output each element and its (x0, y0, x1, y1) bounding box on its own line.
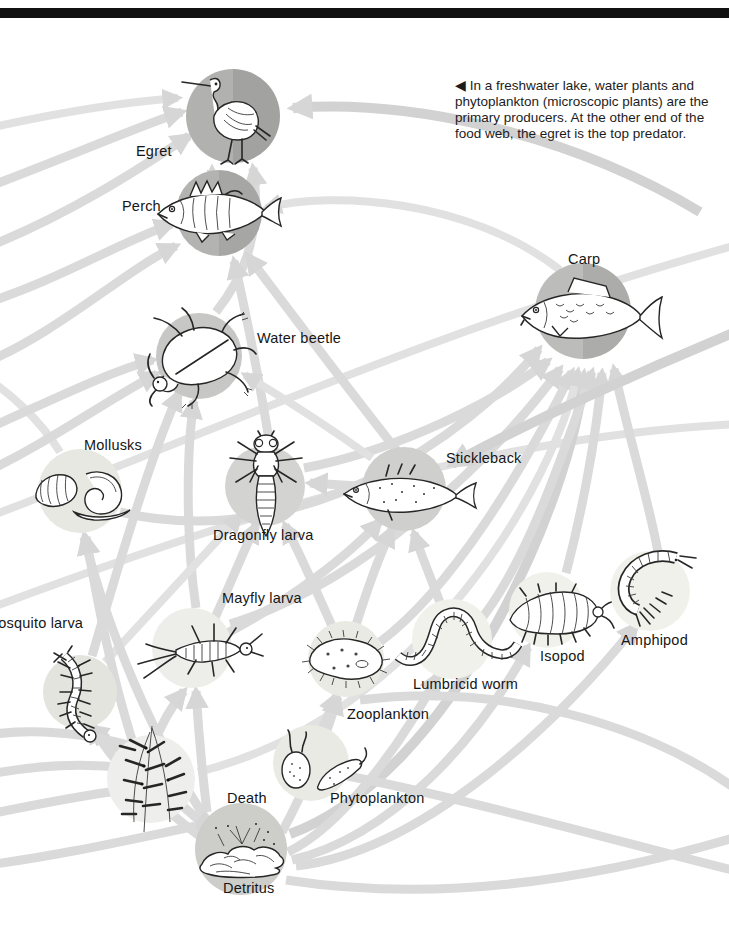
mayfly-larva-icon (136, 608, 264, 684)
lumbricid-worm-icon (392, 598, 518, 670)
detritus-icon (194, 818, 292, 882)
amphipod-label: Amphipod (621, 632, 688, 648)
zooplankton-icon (298, 624, 394, 694)
perch-label: Perch (122, 198, 161, 214)
egret-icon (178, 56, 278, 168)
lumbricid-worm-label: Lumbricid worm (413, 676, 518, 692)
death-label: Death (227, 790, 267, 806)
detritus-label: Detritus (223, 880, 275, 896)
water-plants-icon (106, 722, 198, 836)
perch-icon (150, 172, 282, 250)
water-beetle-label: Water beetle (257, 330, 341, 346)
food-web-diagram-page: ◀ In a freshwater lake, water plants and… (0, 0, 729, 944)
zooplankton-label: Zooplankton (347, 706, 429, 722)
carp-icon (512, 270, 662, 354)
mosquito-larva-label: Mosquito larva (0, 615, 83, 631)
amphipod-icon (606, 548, 698, 628)
mollusks-icon (30, 458, 138, 524)
isopod-label: Isopod (540, 648, 585, 664)
stickleback-label: Stickleback (446, 450, 522, 466)
dragonfly-larva-label: Dragonfly larva (213, 527, 314, 543)
dragonfly-larva-icon (222, 430, 310, 542)
egret-label: Egret (136, 143, 172, 159)
figure-caption: ◀ In a freshwater lake, water plants and… (455, 78, 727, 142)
phytoplankton-label: Phytoplankton (330, 790, 425, 806)
mayfly-larva-label: Mayfly larva (222, 590, 302, 606)
water-beetle-icon (142, 306, 258, 406)
mollusks-label: Mollusks (84, 437, 142, 453)
stickleback-icon (336, 460, 482, 522)
carp-label: Carp (568, 251, 600, 267)
